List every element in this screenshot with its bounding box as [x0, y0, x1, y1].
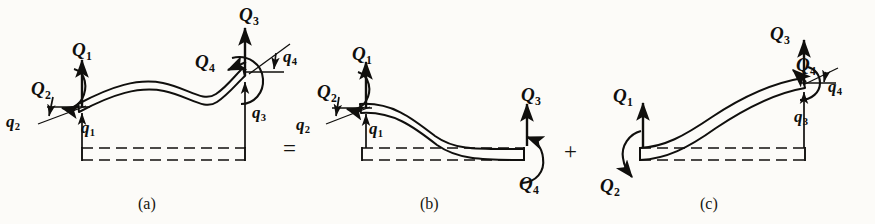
label-a-Q2: Q2	[31, 79, 51, 98]
label-c-Q2: Q2	[600, 176, 620, 195]
caption-panel-b: (b)	[420, 196, 439, 212]
Q2-moment-arc-c	[623, 131, 641, 177]
label-a-Q3: Q3	[239, 5, 259, 24]
q4-rotation-arrow-c	[824, 72, 826, 82]
deformed-beam-a	[78, 68, 245, 112]
label-c-q4: q4	[828, 78, 842, 95]
deformed-beam-b	[360, 104, 524, 160]
equals-operator: =	[283, 137, 296, 160]
caption-panel-c: (c)	[700, 196, 718, 212]
label-a-q1: q1	[81, 119, 95, 136]
Q4-moment-arc-a	[232, 57, 263, 104]
panel-b-graphics	[326, 62, 543, 183]
beam-superposition-figure: Q1 Q2 Q3 Q4 q1 q2 q3 q4 Q1 Q2 Q3 Q4 q1 q…	[0, 0, 875, 224]
label-c-Q4: Q4	[796, 55, 816, 74]
plus-operator: +	[564, 140, 577, 163]
label-a-q2: q2	[6, 113, 20, 130]
label-b-Q2: Q2	[317, 82, 337, 101]
label-a-Q1: Q1	[72, 40, 92, 59]
label-b-Q1: Q1	[352, 44, 372, 63]
label-b-q2: q2	[296, 116, 310, 133]
figure-vector-canvas	[0, 0, 875, 224]
label-b-q1: q1	[369, 120, 383, 137]
label-b-Q4: Q4	[519, 174, 539, 193]
undeformed-beam-c	[640, 147, 805, 161]
label-c-q3: q3	[794, 108, 808, 125]
label-a-q3: q3	[252, 104, 266, 121]
label-a-Q4: Q4	[195, 52, 215, 71]
label-b-Q3: Q3	[521, 85, 541, 104]
label-c-Q3: Q3	[770, 24, 790, 43]
label-a-q4: q4	[283, 48, 297, 65]
label-c-Q1: Q1	[613, 86, 633, 105]
caption-panel-a: (a)	[138, 196, 156, 212]
undeformed-beam-a	[82, 147, 245, 161]
